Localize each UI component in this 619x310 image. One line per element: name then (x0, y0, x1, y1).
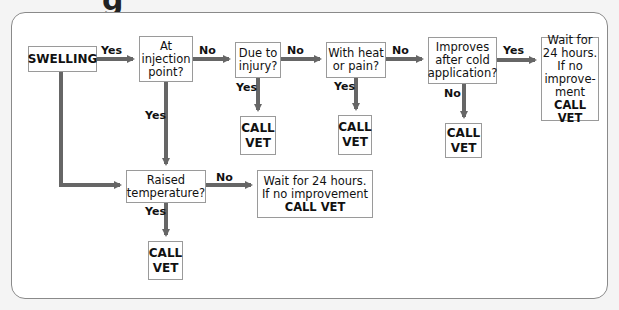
node-label: after cold (435, 53, 490, 67)
edge-label-yes: Yes (145, 205, 166, 218)
node-label: injection (141, 52, 190, 66)
node-cold-application: Improvesafter coldapplication? (428, 37, 497, 84)
node-label: If no (557, 59, 582, 73)
edge-label-no: No (216, 171, 233, 184)
node-label: If no improvement (262, 187, 368, 201)
node-raised-temperature: Raisedtemperature? (126, 170, 206, 203)
node-label: Improves (436, 40, 489, 54)
call-vet-label: CALL VET (554, 98, 586, 125)
node-label: CALL (241, 121, 274, 135)
node-wait-24h-right: Wait for24 hours.If noimprove-mentCALL V… (541, 37, 599, 121)
node-swelling: SWELLING (28, 46, 97, 72)
node-label: VET (153, 261, 179, 275)
edge-label-no: No (444, 87, 461, 100)
node-due-to-injury: Due toinjury? (235, 42, 281, 78)
node-label: SWELLING (28, 52, 98, 67)
node-label: temperature? (127, 186, 205, 200)
node-label: ment (555, 85, 585, 99)
node-label: Wait for (548, 33, 593, 47)
edge-label-yes: Yes (145, 109, 166, 122)
node-wait-24h-bottom: Wait for 24 hours.If no improvementCALL … (257, 170, 373, 218)
node-label: CALL (338, 120, 371, 134)
node-label: VET (245, 136, 271, 150)
node-label: Due to (239, 46, 277, 60)
node-label: VET (342, 135, 368, 149)
edge-label-yes: Yes (236, 81, 257, 94)
node-label: application? (428, 66, 498, 80)
node-label: Wait for 24 hours. (264, 174, 367, 188)
node-label: Raised (147, 173, 185, 187)
node-call-vet-cold: CALLVET (445, 123, 482, 158)
node-label: point? (148, 65, 183, 79)
node-call-vet-temperature: CALLVET (148, 241, 183, 280)
node-label: VET (451, 141, 477, 155)
node-label: With heat (328, 46, 384, 60)
node-call-vet-heat: CALLVET (338, 115, 372, 155)
node-label: or pain? (333, 59, 379, 73)
edge-label-yes: Yes (334, 80, 355, 93)
node-label: improve- (544, 72, 595, 86)
edge-label-no: No (392, 44, 409, 57)
node-label: injury? (239, 59, 278, 73)
node-call-vet-injury: CALLVET (240, 116, 276, 155)
node-label: CALL (447, 126, 480, 140)
call-vet-label: CALL VET (285, 200, 346, 214)
node-label: CALL (149, 246, 182, 260)
edge-label-no: No (287, 44, 304, 57)
edge-label-yes: Yes (503, 44, 524, 57)
edge-label-yes: Yes (101, 44, 122, 57)
node-label: At (160, 39, 172, 53)
node-injection-point: Atinjectionpoint? (139, 36, 193, 82)
node-label: 24 hours. (543, 46, 597, 60)
node-heat-or-pain: With heator pain? (326, 42, 386, 78)
edge-label-no: No (199, 44, 216, 57)
